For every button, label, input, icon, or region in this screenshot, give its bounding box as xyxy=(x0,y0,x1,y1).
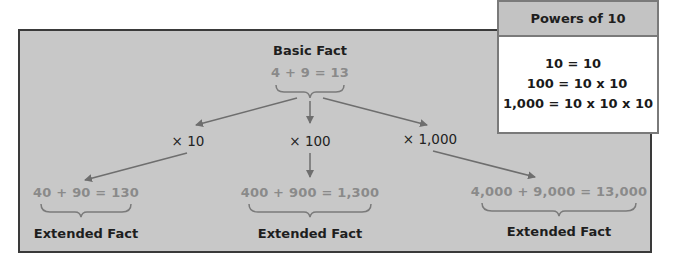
multiplier-x100: × 100 xyxy=(289,133,330,149)
extended-fact-title-3: Extended Fact xyxy=(507,224,611,239)
extended-fact-title-1: Extended Fact xyxy=(34,226,138,241)
basic-fact-title: Basic Fact xyxy=(273,43,347,58)
powers-line-1000: 1,000 = 10 x 10 x 10 xyxy=(499,94,657,114)
powers-of-10-box: Powers of 10 10 = 10 100 = 10 x 10 1,000… xyxy=(497,0,659,134)
powers-of-10-title: Powers of 10 xyxy=(499,2,657,37)
extended-fact-title-2: Extended Fact xyxy=(258,226,362,241)
powers-line-10: 10 = 10 xyxy=(499,54,657,74)
powers-line-100: 100 = 10 x 10 xyxy=(499,74,657,94)
powers-of-10-list: 10 = 10 100 = 10 x 10 1,000 = 10 x 10 x … xyxy=(499,37,657,114)
multiplier-x1000: × 1,000 xyxy=(403,131,457,147)
extended-fact-equation-1: 40 + 90 = 130 xyxy=(33,185,139,200)
multiplier-x10: × 10 xyxy=(172,133,205,149)
extended-fact-equation-3: 4,000 + 9,000 = 13,000 xyxy=(471,184,648,199)
basic-fact-equation: 4 + 9 = 13 xyxy=(271,65,349,80)
extended-fact-equation-2: 400 + 900 = 1,300 xyxy=(241,185,380,200)
